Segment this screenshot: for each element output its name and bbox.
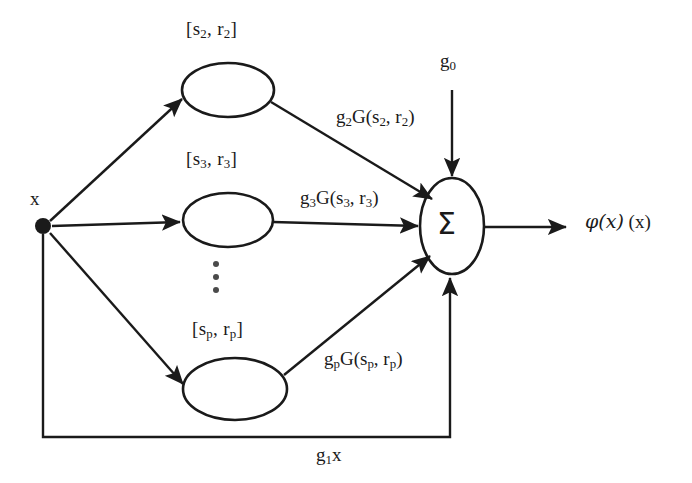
ellipsis-dot-3	[213, 287, 219, 293]
edge-label-weight-3: g3G(s3, r3)	[300, 187, 378, 211]
hidden-node-p-label: [sp, rp]	[192, 318, 243, 342]
ellipsis-dot-1	[213, 261, 219, 267]
hidden-node-p	[183, 358, 287, 420]
network-diagram: [s2, r2] [s3, r3] [sp, rp] x g2G(s2, r2)…	[0, 0, 692, 483]
edge-input-to-node-3	[52, 222, 180, 226]
hidden-node-3-label: [s3, r3]	[186, 148, 237, 172]
feedback-label: g1x	[316, 444, 341, 468]
edge-input-to-node-p	[50, 233, 183, 384]
ellipsis-dot-2	[213, 274, 219, 280]
hidden-node-2	[182, 63, 274, 117]
input-node-dot	[35, 218, 51, 234]
diagram-canvas	[0, 0, 692, 483]
edge-node-3-to-sum	[273, 222, 418, 226]
input-label: x	[30, 188, 40, 210]
edge-label-weight-p: gpG(sp, rp)	[324, 348, 402, 372]
edge-label-weight-2: g2G(s2, r2)	[336, 106, 414, 130]
hidden-node-3	[183, 193, 273, 247]
edge-feedback-direct-path	[43, 234, 450, 437]
edge-input-to-node-2	[50, 99, 182, 221]
hidden-node-2-label: [s2, r2]	[186, 18, 237, 42]
summation-symbol: Σ	[437, 206, 456, 241]
output-label: φ(x) (x)	[585, 210, 651, 233]
bias-label: g0	[440, 50, 456, 74]
phi-symbol: φ	[585, 210, 598, 232]
